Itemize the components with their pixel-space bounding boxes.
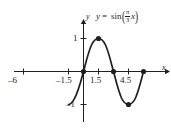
equation-label: y = sin ( π 3 x ) [96,9,138,24]
x-tick-label-neg6: –6 [8,76,17,85]
point-zero-origin [81,69,86,74]
sine-graph-figure: y = sin ( π 3 x ) –6 –1.5 1.5 4.5 1 –1 y… [0,0,171,129]
y-tick-label-1: 1 [73,34,78,43]
paren-open: ( [122,9,125,24]
fraction-denominator: 3 [125,17,130,24]
paren-close: ) [135,9,138,24]
equation-function: sin [111,12,122,21]
point-minimum [126,102,131,107]
x-tick-label-1-5: 1.5 [90,76,101,85]
equation-lhs: y [96,12,100,21]
equation-fraction: π 3 [125,9,130,23]
point-maximum [96,36,101,41]
x-tick-label-neg1-5: –1.5 [56,76,72,85]
point-zero-end [141,69,146,74]
equation-equals: = [102,12,107,21]
point-zero-mid [111,69,116,74]
x-axis-name: x [162,64,166,72]
y-axis-name: y [86,13,90,21]
x-tick-label-4-5: 4.5 [120,76,131,85]
fraction-numerator: π [125,9,130,16]
y-tick-label-neg1: –1 [66,100,75,109]
